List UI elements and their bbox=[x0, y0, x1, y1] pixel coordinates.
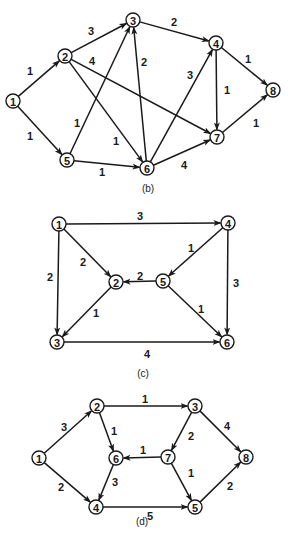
node-label: 3 bbox=[54, 337, 60, 349]
node-4: 4 bbox=[209, 36, 223, 50]
edge-4-to-6 bbox=[227, 230, 228, 335]
edge-weight-label: 2 bbox=[141, 56, 147, 68]
edge-5-to-3 bbox=[70, 27, 130, 154]
node-label: 4 bbox=[93, 502, 100, 514]
edge-1-to-2 bbox=[44, 411, 91, 453]
edge-weight-label: 1 bbox=[99, 166, 105, 178]
edge-weight-label: 3 bbox=[88, 25, 94, 37]
node-label: 1 bbox=[10, 96, 16, 108]
node-label: 1 bbox=[36, 453, 42, 465]
edge-weight-label: 1 bbox=[245, 53, 251, 65]
edge-weight-label: 3 bbox=[112, 476, 118, 488]
node-8: 8 bbox=[266, 83, 280, 97]
node-2: 2 bbox=[109, 275, 123, 289]
node-7: 7 bbox=[161, 450, 175, 464]
edge-weight-label: 1 bbox=[111, 425, 117, 437]
node-6: 6 bbox=[109, 451, 123, 465]
edge-1-to-5 bbox=[18, 106, 62, 154]
edge-4-to-5 bbox=[169, 228, 223, 276]
node-label: 3 bbox=[192, 401, 198, 413]
edge-2-to-3 bbox=[71, 24, 126, 53]
edge-weight-label: 4 bbox=[181, 159, 188, 171]
edge-1-to-3 bbox=[57, 231, 59, 335]
node-label: 6 bbox=[224, 337, 230, 349]
edge-4-to-7 bbox=[216, 50, 217, 130]
node-label: 8 bbox=[270, 85, 276, 97]
graph-caption: (c) bbox=[137, 368, 149, 379]
edge-weight-label: 2 bbox=[227, 480, 233, 492]
graph-b: 1134111223411112345678(b) bbox=[6, 13, 280, 194]
node-3: 3 bbox=[50, 335, 64, 349]
edge-weight-label: 3 bbox=[137, 210, 143, 222]
edge-1-to-2 bbox=[64, 229, 111, 277]
node-2: 2 bbox=[58, 49, 72, 63]
edge-weight-label: 2 bbox=[188, 430, 194, 442]
edge-3-to-8 bbox=[200, 411, 241, 452]
edge-7-to-6 bbox=[124, 457, 162, 458]
edge-weight-label: 4 bbox=[144, 348, 151, 360]
edge-weight-label: 1 bbox=[188, 242, 194, 254]
node-label: 2 bbox=[94, 401, 100, 413]
graph-caption: (b) bbox=[142, 183, 154, 194]
edge-weight-label: 1 bbox=[74, 117, 80, 129]
node-4: 4 bbox=[221, 216, 235, 230]
node-6: 6 bbox=[220, 335, 234, 349]
edge-weight-label: 3 bbox=[187, 69, 193, 81]
node-7: 7 bbox=[210, 130, 224, 144]
edge-weight-label: 3 bbox=[233, 277, 239, 289]
node-label: 6 bbox=[113, 453, 119, 465]
edge-weight-label: 2 bbox=[47, 271, 53, 283]
edge-weight-label: 2 bbox=[137, 270, 143, 282]
edge-weight-label: 1 bbox=[142, 393, 148, 405]
edge-weight-label: 4 bbox=[224, 420, 231, 432]
network-diagrams: 1134111223411112345678(b) 32212311412345… bbox=[0, 0, 288, 549]
node-label: 5 bbox=[160, 276, 166, 288]
edge-5-to-6 bbox=[168, 286, 222, 337]
node-label: 1 bbox=[56, 219, 62, 231]
edge-5-to-8 bbox=[200, 462, 241, 502]
node-6: 6 bbox=[140, 161, 154, 175]
edge-weight-label: 1 bbox=[93, 307, 99, 319]
node-5: 5 bbox=[60, 153, 74, 167]
node-label: 2 bbox=[113, 277, 119, 289]
edge-5-to-6 bbox=[74, 161, 140, 168]
node-label: 5 bbox=[192, 502, 198, 514]
node-1: 1 bbox=[52, 217, 66, 231]
edge-weight-label: 1 bbox=[27, 65, 33, 77]
node-label: 7 bbox=[214, 132, 220, 144]
edge-weight-label: 1 bbox=[140, 444, 146, 456]
node-1: 1 bbox=[6, 94, 20, 108]
graph-caption: (d) bbox=[136, 516, 148, 527]
edge-weight-label: 2 bbox=[171, 16, 177, 28]
node-5: 5 bbox=[156, 274, 170, 288]
node-3: 3 bbox=[126, 13, 140, 27]
edge-weight-label: 1 bbox=[198, 303, 204, 315]
edge-1-to-4 bbox=[66, 223, 221, 224]
node-label: 2 bbox=[62, 51, 68, 63]
node-5: 5 bbox=[188, 500, 202, 514]
node-4: 4 bbox=[89, 500, 103, 514]
edge-weight-label: 1 bbox=[188, 467, 194, 479]
node-label: 3 bbox=[130, 15, 136, 27]
edge-1-to-2 bbox=[18, 61, 59, 97]
edge-2-to-3 bbox=[62, 287, 111, 337]
node-2: 2 bbox=[90, 399, 104, 413]
edge-weight-label: 3 bbox=[61, 421, 67, 433]
node-label: 6 bbox=[144, 163, 150, 175]
edge-7-to-8 bbox=[222, 95, 267, 133]
node-label: 8 bbox=[243, 452, 249, 464]
node-label: 4 bbox=[225, 218, 232, 230]
edge-weight-label: 1 bbox=[253, 117, 259, 129]
node-3: 3 bbox=[188, 399, 202, 413]
edge-weight-label: 2 bbox=[58, 481, 64, 493]
edge-weight-label: 4 bbox=[89, 55, 96, 67]
graph-c: 322123114123456(c) bbox=[47, 210, 239, 379]
edge-weight-label: 1 bbox=[113, 135, 119, 147]
node-label: 4 bbox=[213, 38, 220, 50]
node-label: 5 bbox=[64, 155, 70, 167]
node-8: 8 bbox=[239, 450, 253, 464]
edge-weight-label: 2 bbox=[80, 256, 86, 268]
edge-weight-label: 1 bbox=[27, 130, 33, 142]
graph-d: 3211241135212345678(d) bbox=[32, 393, 253, 527]
node-1: 1 bbox=[32, 451, 46, 465]
